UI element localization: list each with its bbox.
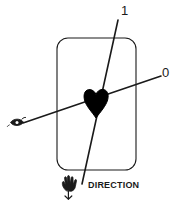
- heart-icon: [84, 89, 108, 118]
- eye-icon: [7, 117, 26, 126]
- direction-label: DIRECTION: [88, 181, 139, 190]
- figure-container: 1 0 DIRECTION: [0, 0, 182, 212]
- hand-icon: [62, 176, 76, 200]
- axis-label-one: 1: [121, 4, 128, 17]
- axis-label-zero: 0: [162, 66, 169, 79]
